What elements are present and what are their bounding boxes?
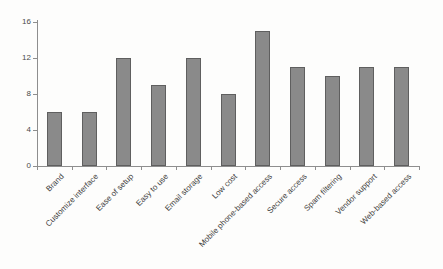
x-axis-tick bbox=[350, 167, 351, 170]
x-axis-label: Brand bbox=[44, 172, 65, 193]
bar-chart: 0481216BrandCustomize interfaceEase of s… bbox=[0, 0, 443, 269]
x-axis-tick bbox=[72, 167, 73, 170]
x-axis-label: Mobile phone-based access bbox=[197, 172, 274, 249]
bar bbox=[47, 112, 62, 166]
bar bbox=[359, 67, 374, 166]
x-axis-tick bbox=[37, 167, 38, 170]
y-axis-tick bbox=[33, 22, 37, 23]
y-tick-label: 0 bbox=[9, 161, 31, 171]
plot-area: 0481216BrandCustomize interfaceEase of s… bbox=[0, 0, 443, 269]
y-axis-tick bbox=[33, 94, 37, 95]
bar bbox=[82, 112, 97, 166]
x-axis-tick bbox=[384, 167, 385, 170]
y-tick-label: 12 bbox=[9, 53, 31, 63]
x-axis-tick bbox=[141, 167, 142, 170]
y-axis-tick bbox=[33, 58, 37, 59]
y-tick-label: 16 bbox=[9, 17, 31, 27]
x-axis-label: Ease of setup bbox=[94, 172, 135, 213]
x-axis-tick bbox=[315, 167, 316, 170]
y-axis-tick bbox=[33, 130, 37, 131]
x-axis-line bbox=[37, 166, 420, 167]
bar bbox=[186, 58, 201, 166]
x-axis-label: Easy to use bbox=[134, 172, 170, 208]
x-axis-tick bbox=[419, 167, 420, 170]
y-tick-label: 8 bbox=[9, 89, 31, 99]
bar bbox=[290, 67, 305, 166]
x-axis-tick bbox=[245, 167, 246, 170]
y-axis-line bbox=[37, 20, 38, 167]
x-axis-tick bbox=[211, 167, 212, 170]
bar bbox=[255, 31, 270, 166]
bar bbox=[151, 85, 166, 166]
bar bbox=[394, 67, 409, 166]
x-axis-tick bbox=[176, 167, 177, 170]
bar bbox=[325, 76, 340, 166]
bar bbox=[116, 58, 131, 166]
y-tick-label: 4 bbox=[9, 125, 31, 135]
x-axis-tick bbox=[106, 167, 107, 170]
x-axis-label: Low cost bbox=[211, 172, 240, 201]
bar bbox=[221, 94, 236, 166]
x-axis-tick bbox=[280, 167, 281, 170]
